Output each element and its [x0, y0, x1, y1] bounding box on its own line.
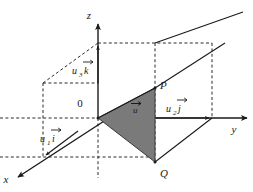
point-p-dot: [154, 87, 157, 90]
component-u3k-subscript: 3: [78, 71, 83, 79]
z-axis-label: z: [86, 9, 92, 21]
vector-diagram-figure: z y x 0 P Q u 1 i u 2 j u 3 k: [0, 0, 253, 192]
component-u3k-unit: k: [84, 65, 89, 76]
component-label-u3k: u 3 k: [72, 60, 93, 79]
component-label-u2j: u 2 j: [166, 98, 187, 117]
component-arrow-u1i: [46, 131, 78, 155]
component-u1i-subscript: 1: [47, 139, 51, 147]
box-edge-upper-left-diagonal: [43, 43, 98, 83]
component-u3k-vector-bar: [83, 60, 93, 64]
vector-u-letter: u: [133, 105, 138, 115]
point-q-dot: [154, 161, 157, 164]
point-q-label: Q: [160, 167, 168, 179]
diagonal-top-far: [155, 12, 243, 43]
diagonal-q-to-corner: [155, 118, 212, 162]
component-u2j-base: u: [166, 103, 171, 114]
component-u1i-vector-bar: [51, 128, 61, 132]
depth-diagonals: [155, 12, 243, 162]
component-u2j-subscript: 2: [173, 109, 177, 117]
x-axis-label: x: [3, 173, 9, 185]
component-u1i-base: u: [40, 133, 45, 144]
origin-label: 0: [77, 97, 83, 109]
y-axis-label: y: [231, 123, 237, 135]
component-u2j-vector-bar: [177, 98, 187, 102]
component-u2j-unit: j: [176, 103, 181, 114]
vector-diagram-canvas: z y x 0 P Q u 1 i u 2 j u 3 k: [0, 0, 253, 192]
shaded-triangle-opq: [98, 88, 155, 162]
component-u3k-base: u: [72, 65, 77, 76]
point-p-label: P: [159, 79, 167, 91]
origin-dot: [97, 117, 100, 120]
component-u1i-unit: i: [52, 133, 55, 144]
